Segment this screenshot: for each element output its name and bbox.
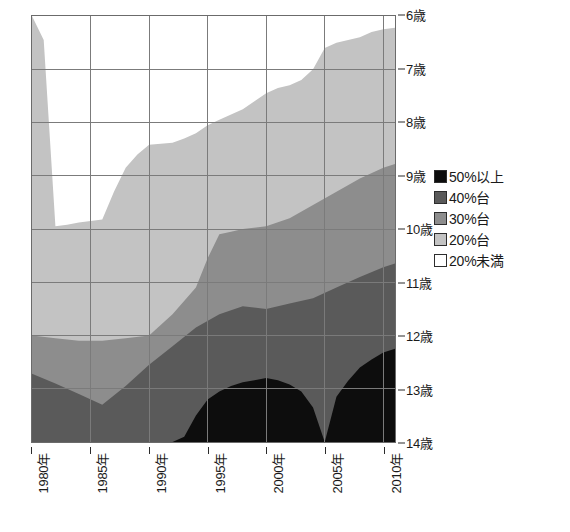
x-axis-labels: 1980年1985年1990年1995年2000年2005年2010年 xyxy=(31,447,396,507)
legend-item: 40%台 xyxy=(434,187,566,208)
y-axis-tick-mark xyxy=(398,175,405,176)
y-axis-tick-label: 12歳 xyxy=(406,330,433,343)
chart-container: 6歳7歳8歳9歳10歳11歳12歳13歳14歳 1980年1985年1990年1… xyxy=(0,0,570,532)
y-axis-tick-label: 10歳 xyxy=(406,223,433,236)
area-chart-svg xyxy=(32,16,395,442)
legend-label: 40%台 xyxy=(449,191,490,205)
legend-label: 20%未満 xyxy=(449,254,504,268)
x-axis-tick-mark xyxy=(208,447,209,454)
y-axis-tick-label: 7歳 xyxy=(406,62,426,75)
x-axis-tick-label: 2005年 xyxy=(331,453,344,493)
legend-item: 20%台 xyxy=(434,229,566,250)
plot-wrapper xyxy=(31,15,396,443)
y-axis-tick-mark xyxy=(398,282,405,283)
y-axis-tick-mark xyxy=(398,389,405,390)
x-axis-tick-mark xyxy=(266,447,267,454)
y-axis-tick-label: 14歳 xyxy=(406,437,433,450)
legend-label: 30%台 xyxy=(449,212,490,226)
x-axis-tick-label: 2010年 xyxy=(390,453,403,493)
legend-item: 20%未満 xyxy=(434,250,566,271)
legend-item: 30%台 xyxy=(434,208,566,229)
x-axis-tick-label: 1990年 xyxy=(155,453,168,493)
x-axis-tick-mark xyxy=(31,447,32,454)
legend-swatch-icon xyxy=(434,170,447,183)
x-axis-tick-mark xyxy=(384,447,385,454)
y-axis-tick-mark xyxy=(398,15,405,16)
y-axis-tick-mark xyxy=(398,68,405,69)
x-axis-tick-label: 2000年 xyxy=(272,453,285,493)
x-axis-tick-mark xyxy=(325,447,326,454)
x-axis-tick-mark xyxy=(149,447,150,454)
y-axis-tick-mark xyxy=(398,336,405,337)
y-axis-tick-label: 6歳 xyxy=(406,9,426,22)
legend-label: 50%以上 xyxy=(449,170,504,184)
y-axis-tick-mark xyxy=(398,229,405,230)
legend-swatch-icon xyxy=(434,212,447,225)
y-axis-tick-label: 11歳 xyxy=(406,276,432,289)
y-axis-tick-mark xyxy=(398,122,405,123)
x-axis-tick-mark xyxy=(90,447,91,454)
y-axis-tick-label: 13歳 xyxy=(406,383,433,396)
y-axis-tick-mark xyxy=(398,443,405,444)
legend-item: 50%以上 xyxy=(434,166,566,187)
legend-swatch-icon xyxy=(434,191,447,204)
legend-swatch-icon xyxy=(434,254,447,267)
plot-area xyxy=(31,15,396,443)
chart-legend: 50%以上40%台30%台20%台20%未満 xyxy=(434,166,566,271)
x-axis-tick-label: 1995年 xyxy=(214,453,227,493)
legend-swatch-icon xyxy=(434,233,447,246)
legend-label: 20%台 xyxy=(449,233,490,247)
x-axis-tick-label: 1985年 xyxy=(96,453,109,493)
x-axis-tick-label: 1980年 xyxy=(37,453,50,493)
y-axis-tick-label: 8歳 xyxy=(406,116,426,129)
y-axis-tick-label: 9歳 xyxy=(406,169,426,182)
